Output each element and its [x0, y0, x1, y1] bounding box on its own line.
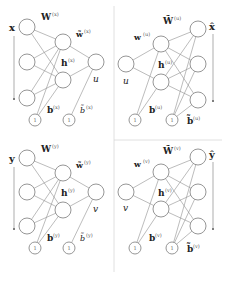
out-bias-sup: (x) — [86, 104, 93, 110]
weight-label: W — [40, 12, 52, 22]
out-bias-sup: (u) — [193, 115, 200, 121]
hidden-node — [55, 165, 71, 181]
weight-sup: (u) — [143, 31, 150, 37]
input-label: v — [123, 203, 128, 213]
hidden-node — [55, 202, 71, 218]
hidden-sup: (x) — [68, 57, 75, 63]
out-weight-sup: (v) — [174, 145, 181, 151]
input-node — [19, 184, 35, 200]
bias-sup: (y) — [53, 232, 60, 239]
hidden-sup: (v) — [165, 187, 172, 193]
output-label: x̂ — [209, 21, 216, 32]
output-label: ŷ — [208, 149, 216, 160]
out-weight-sup: (y) — [84, 159, 91, 166]
bias-node-one: 1 — [134, 245, 137, 251]
hidden-sup: (u) — [165, 59, 172, 65]
weight-sup: (y) — [52, 143, 59, 150]
bias-node-one: 1 — [134, 117, 137, 123]
output-node — [190, 92, 206, 108]
hidden-node — [153, 36, 169, 52]
out-bias-label: b̃ — [80, 104, 85, 115]
input-label: y — [8, 153, 16, 164]
weight-label: W — [40, 144, 52, 154]
out-weight-sup: (x) — [84, 28, 91, 34]
out-bias-sup: (v) — [193, 243, 200, 249]
hidden-label: h — [158, 188, 165, 198]
output-node — [190, 184, 206, 200]
output-label: v — [93, 204, 98, 214]
out-weight-label: W̃ — [162, 145, 174, 156]
input-label: x — [9, 22, 16, 33]
input-node — [19, 90, 35, 106]
bias-node-one: 1 — [171, 117, 174, 123]
hidden-node — [55, 34, 71, 50]
hidden-node — [153, 74, 169, 90]
autoencoder-diagram: 1 1 x W (x) w̃ (x) h (x) u b (x) b̃ (x) — [0, 0, 229, 285]
out-bias-sup: (y) — [86, 232, 93, 239]
weight-sup: (x) — [52, 11, 59, 17]
bias-sup: (v) — [155, 232, 162, 238]
output-node — [190, 218, 206, 234]
output-label: u — [93, 74, 99, 84]
out-weight-label: w̃ — [75, 29, 84, 39]
out-weight-label: w̃ — [75, 160, 84, 170]
bias-node-one: 1 — [171, 245, 174, 251]
bias-sup: (x) — [53, 104, 60, 110]
bias-node-one: 1 — [68, 245, 71, 251]
weight-sup: (v) — [143, 158, 150, 164]
hidden-label: h — [61, 58, 68, 68]
output-node — [88, 184, 104, 200]
panel-y-encoder: 1 1 y W (y) w̃ (y) h (y) v b (y) b̃ (y) — [8, 143, 104, 254]
hidden-node — [153, 164, 169, 180]
bias-node-one: 1 — [68, 117, 71, 123]
panel-y-decoder: 1 1 v w (v) W̃ (v) h (v) ŷ b (v) b̃ (v) — [118, 145, 216, 254]
hidden-node — [153, 201, 169, 217]
input-label: u — [123, 76, 129, 86]
input-node — [118, 56, 134, 72]
out-weight-sup: (u) — [174, 15, 181, 21]
bias-node-one: 1 — [34, 245, 37, 251]
input-node — [19, 218, 35, 234]
out-bias-label: b̃ — [80, 232, 85, 243]
bias-node-one: 1 — [34, 117, 37, 123]
weight-label: w — [133, 159, 142, 169]
out-weight-label: W̃ — [162, 15, 174, 26]
weight-label: w — [133, 32, 142, 42]
hidden-label: h — [61, 188, 68, 198]
input-node — [19, 54, 35, 70]
output-node — [88, 54, 104, 70]
panel-x-encoder: 1 1 x W (x) w̃ (x) h (x) u b (x) b̃ (x) — [9, 11, 104, 126]
panel-x-decoder: 1 1 u w (u) W̃ (u) h (u) x̂ b (u) b̃ (u) — [118, 15, 216, 126]
input-node — [19, 19, 35, 35]
output-node — [190, 149, 206, 165]
output-node — [190, 21, 206, 37]
bias-sup: (u) — [155, 104, 162, 110]
input-node — [19, 150, 35, 166]
output-node — [190, 56, 206, 72]
hidden-sup: (y) — [68, 187, 75, 194]
input-node — [118, 184, 134, 200]
hidden-node — [55, 72, 71, 88]
hidden-label: h — [158, 60, 165, 70]
